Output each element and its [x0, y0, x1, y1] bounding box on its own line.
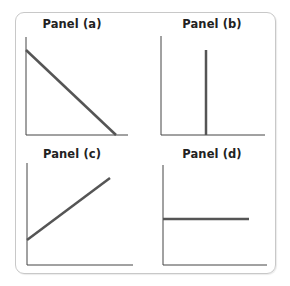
panels-graphic: [0, 0, 290, 286]
panel-c-plot: [27, 163, 133, 265]
panel-a-plot: [26, 37, 128, 135]
panel-a-curve: [26, 50, 116, 135]
panel-c-curve: [27, 178, 110, 240]
panel-b-plot: [161, 36, 265, 135]
panel-d-plot: [163, 165, 267, 265]
